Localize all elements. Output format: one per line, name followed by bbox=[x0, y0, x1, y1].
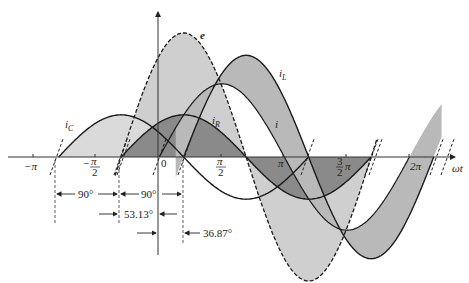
tick-neg-half-pi-den: 2 bbox=[92, 166, 98, 178]
tick-pi: π bbox=[278, 157, 284, 169]
label-iL: iL bbox=[279, 67, 287, 82]
dim-36-87: 36.87° bbox=[203, 227, 232, 239]
phase-diagram: −π − π 2 0 π 2 π 3 2 π 2π ωt e iL i iR i… bbox=[0, 0, 469, 283]
tick-half-pi-den: 2 bbox=[218, 166, 224, 178]
tick-neg-half-pi-sign: − bbox=[83, 157, 89, 169]
axis-label-omega-t: ωt bbox=[452, 162, 464, 174]
dimension-guides bbox=[55, 160, 183, 245]
dim-90-a: 90° bbox=[78, 188, 93, 200]
label-e: e bbox=[200, 29, 205, 41]
tick-3half-den: 2 bbox=[337, 166, 343, 178]
tick-3half-pi: π bbox=[345, 160, 351, 172]
tick-2pi: 2π bbox=[410, 160, 422, 172]
label-i: i bbox=[275, 118, 278, 130]
tick-zero: 0 bbox=[161, 157, 167, 169]
tick-neg-pi: −π bbox=[24, 160, 37, 172]
dim-90-b: 90° bbox=[141, 188, 156, 200]
label-iC: iC bbox=[65, 118, 74, 133]
dim-53-13: 53.13° bbox=[124, 208, 153, 220]
